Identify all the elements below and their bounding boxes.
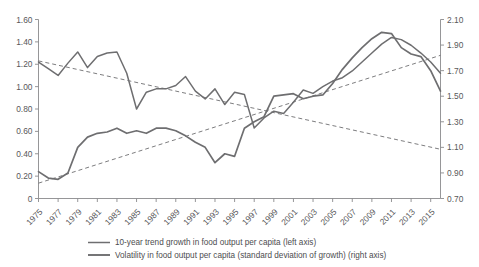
right-axis-tick-label: 0.70: [447, 194, 464, 204]
x-axis-tick-label: 2009: [358, 207, 378, 227]
left-axis-tick-label: 0.60: [16, 126, 33, 136]
x-axis-tick-label: 1995: [220, 207, 240, 227]
chart-figure: 00.200.400.600.801.001.201.401.60 0.700.…: [0, 0, 479, 267]
x-axis-tick-label: 1997: [240, 207, 260, 227]
right-axis-tick-label: 2.10: [447, 15, 464, 25]
x-axis-tick-label: 2013: [397, 207, 417, 227]
left-axis: 00.200.400.600.801.001.201.401.60: [16, 15, 38, 204]
chart-legend: 10-year trend growth in food output per …: [88, 238, 387, 260]
x-axis-tick-label: 1977: [44, 207, 64, 227]
x-axis-tick-label: 1975: [24, 207, 44, 227]
x-axis-tick-label: 2005: [318, 207, 338, 227]
right-axis-tick-label: 1.10: [447, 142, 464, 152]
right-axis-tick-label: 1.70: [447, 66, 464, 76]
left-axis-tick-label: 1.20: [16, 59, 33, 69]
x-axis-tick-label: 1989: [161, 207, 181, 227]
x-axis-tick-label: 1987: [142, 207, 162, 227]
trend-lines: [39, 55, 441, 183]
x-axis-tick-label: 1983: [103, 207, 123, 227]
data-series: [39, 32, 441, 179]
x-axis-tick-label: 1985: [122, 207, 142, 227]
right-axis-tick-label: 1.90: [447, 40, 464, 50]
x-axis-tick-label: 1991: [181, 207, 201, 227]
right-axis-tick-label: 0.90: [447, 168, 464, 178]
x-axis-tick-label: 2001: [279, 207, 299, 227]
right-axis-tick-label: 1.50: [447, 91, 464, 101]
x-axis-tick-label: 1993: [201, 207, 221, 227]
x-axis-tick-label: 2007: [338, 207, 358, 227]
x-axis-tick-label: 2015: [416, 207, 436, 227]
x-axis-tick-label: 2003: [299, 207, 319, 227]
x-axis: 1975197719791981198319851987198919911993…: [24, 199, 440, 228]
left-axis-tick-label: 1.60: [16, 15, 33, 25]
right-axis: 0.700.901.101.301.501.701.902.10: [441, 15, 464, 204]
left-axis-tick-label: 1.00: [16, 82, 33, 92]
x-axis-tick-label: 1979: [63, 207, 83, 227]
left-axis-tick-label: 0.20: [16, 171, 33, 181]
right-axis-tick-label: 1.30: [447, 117, 464, 127]
volatility-dashed-trend: [39, 55, 441, 183]
series-line: [39, 37, 441, 128]
x-axis-tick-label: 2011: [378, 207, 398, 227]
legend-label: 10-year trend growth in food output per …: [115, 238, 316, 247]
series-line: [39, 32, 441, 179]
left-axis-tick-label: 0.40: [16, 149, 33, 159]
left-axis-tick-label: 0.80: [16, 104, 33, 114]
x-axis-tick-label: 1981: [83, 207, 103, 227]
left-axis-tick-label: 1.40: [16, 37, 33, 47]
left-axis-tick-label: 0: [28, 194, 33, 204]
legend-label: Volatility in food output per capita (st…: [115, 251, 387, 260]
chart-plot-area: 00.200.400.600.801.001.201.401.60 0.700.…: [0, 0, 479, 267]
x-axis-tick-label: 1999: [259, 207, 279, 227]
